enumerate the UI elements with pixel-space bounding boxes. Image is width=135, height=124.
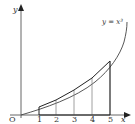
origin-label: O	[9, 115, 16, 124]
y-axis-arrow-icon	[18, 4, 24, 11]
tick-label-2: 2	[54, 115, 59, 124]
tick-label-5: 5	[108, 115, 113, 124]
tick-label-4: 4	[90, 115, 95, 124]
tick-label-1: 1	[37, 115, 42, 124]
curve-label: y = x³	[101, 18, 123, 26]
y-axis-label: y	[12, 5, 18, 14]
x-axis-label: x	[121, 115, 126, 124]
trapezium-chords	[39, 61, 110, 107]
trapezium-diagram: y x O 1 2 3 4 5 y = x³	[0, 0, 135, 124]
tick-label-3: 3	[72, 115, 77, 124]
